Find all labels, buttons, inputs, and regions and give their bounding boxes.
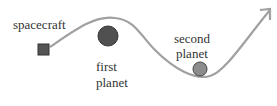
- trajectory-diagram: [0, 0, 277, 106]
- second-planet-icon: [193, 62, 207, 76]
- first-planet-label-line2: planet: [96, 76, 128, 89]
- first-planet-label-line1: first: [96, 60, 117, 73]
- second-planet-label-line1: second: [174, 32, 210, 45]
- first-planet-icon: [98, 26, 118, 46]
- spacecraft-label: spacecraft: [13, 18, 66, 31]
- spacecraft-icon: [38, 44, 49, 55]
- trajectory-path: [50, 10, 270, 77]
- second-planet-label-line2: planet: [176, 47, 208, 60]
